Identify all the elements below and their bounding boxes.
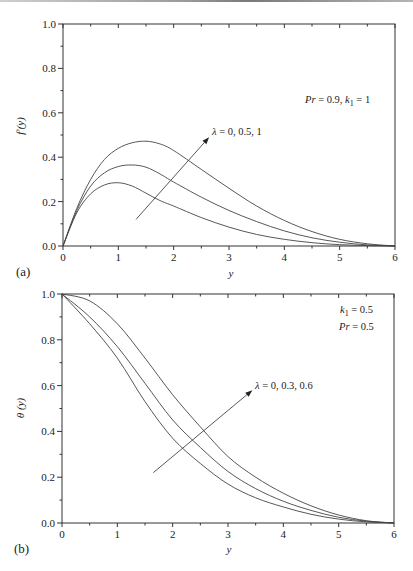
x-tick-label: 4 — [281, 528, 287, 540]
x-tick-label: 2 — [170, 528, 176, 540]
series-curve — [63, 165, 395, 246]
y-tick-label: 0.4 — [41, 425, 55, 437]
y-tick-label: 0.8 — [42, 62, 56, 74]
x-axis-title: y — [226, 543, 232, 555]
data-curves — [63, 141, 395, 246]
axis-ticks — [58, 24, 395, 250]
y-tick-label: 0.8 — [41, 334, 55, 346]
y-tick-label: 1.0 — [41, 288, 55, 300]
y-axis-title: θ (y) — [14, 397, 27, 418]
x-tick-label: 4 — [282, 251, 288, 263]
y-tick-label: 0.6 — [41, 380, 55, 392]
y-tick-label: 0.4 — [42, 151, 56, 163]
series-curve — [63, 141, 395, 246]
y-tick-labels: 0.00.20.40.60.81.0 — [42, 18, 56, 252]
y-tick-label: 0.2 — [42, 196, 56, 208]
x-tick-label: 2 — [171, 251, 177, 263]
y-tick-label: 0.2 — [41, 471, 55, 483]
pr-annotation: Pr = 0.5 — [338, 321, 374, 332]
x-axis-title: y — [228, 267, 234, 279]
chart-panel-b: 0123456 0.00.20.40.60.81.0 λ = 0, 0.3, 0… — [14, 288, 397, 556]
chart-panel-a: 0123456 0.00.20.40.60.81.0 λ = 0, 0.5, 1… — [14, 18, 398, 279]
params-annotation: Pr = 0.9, k1 = 1 — [304, 94, 370, 108]
y-tick-label: 1.0 — [42, 18, 56, 30]
k1-annotation: k1 = 0.5 — [340, 304, 373, 318]
y-tick-label: 0.0 — [42, 240, 56, 252]
x-tick-label: 1 — [115, 528, 121, 540]
x-tick-labels: 0123456 — [59, 528, 397, 540]
y-axis-title: f′(y) — [14, 117, 27, 135]
x-tick-label: 0 — [59, 528, 65, 540]
x-tick-label: 0 — [60, 251, 66, 263]
panel-label-a: (a) — [16, 264, 30, 279]
y-tick-label: 0.6 — [42, 107, 56, 119]
x-tick-label: 3 — [225, 528, 231, 540]
figure: 0123456 0.00.20.40.60.81.0 λ = 0, 0.5, 1… — [0, 0, 413, 571]
x-tick-label: 5 — [336, 528, 342, 540]
panel-label-b: (b) — [14, 541, 29, 556]
lambda-annotation: λ = 0, 0.3, 0.6 — [254, 380, 313, 391]
y-tick-labels: 0.00.20.40.60.81.0 — [41, 288, 55, 529]
x-tick-label: 6 — [392, 251, 398, 263]
x-tick-label: 5 — [337, 251, 343, 263]
series-curve — [63, 183, 395, 246]
x-tick-label: 3 — [226, 251, 232, 263]
x-tick-labels: 0123456 — [60, 251, 398, 263]
x-tick-label: 1 — [116, 251, 122, 263]
x-tick-label: 6 — [391, 528, 397, 540]
lambda-annotation: λ = 0, 0.5, 1 — [211, 126, 262, 137]
trend-arrow — [136, 142, 204, 219]
y-tick-label: 0.0 — [41, 517, 55, 529]
